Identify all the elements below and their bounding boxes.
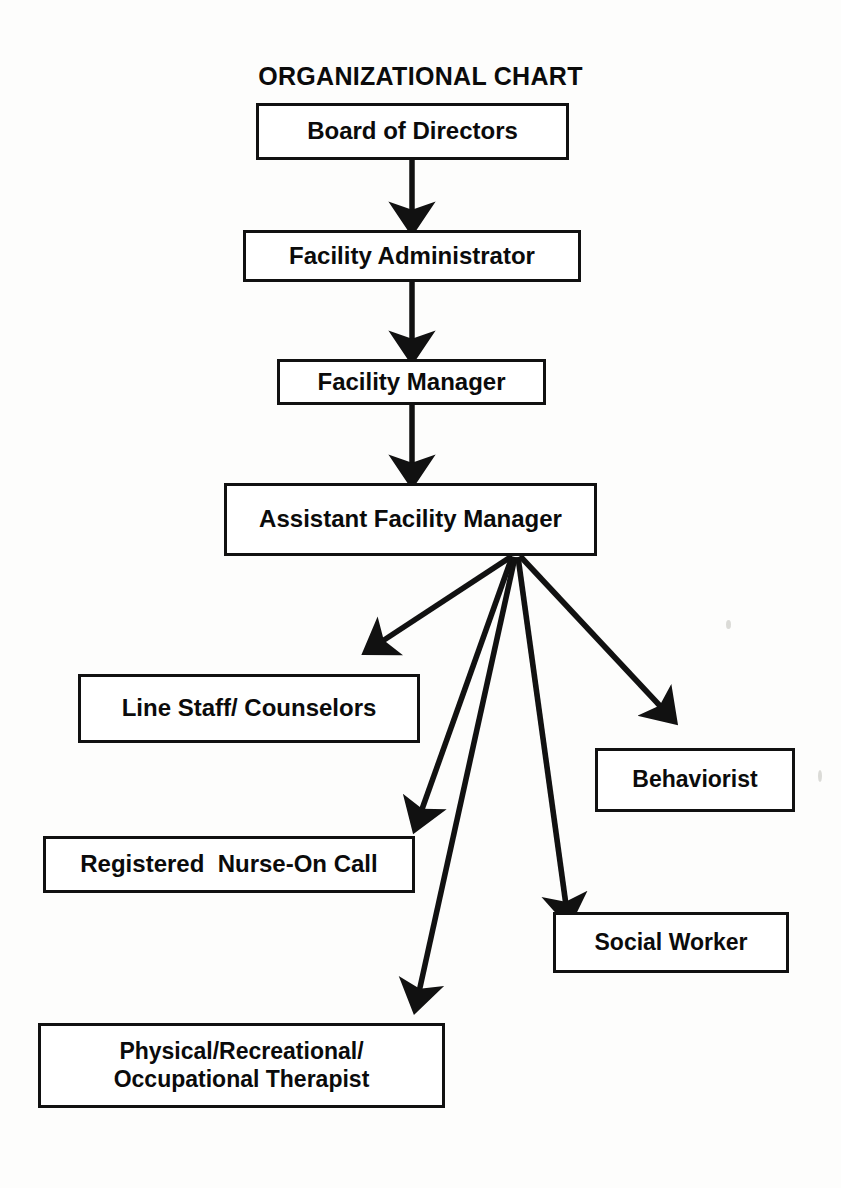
node-label: Facility Administrator: [283, 242, 541, 270]
node-physical-recreational-occupational-therapist[interactable]: Physical/Recreational/ Occupational Ther…: [38, 1023, 445, 1108]
node-label: Assistant Facility Manager: [253, 505, 568, 533]
edge-asst-to-behaviorist: [520, 556, 662, 708]
node-facility-manager[interactable]: Facility Manager: [277, 359, 546, 405]
page-title: ORGANIZATIONAL CHART: [0, 62, 841, 91]
node-label: Line Staff/ Counselors: [116, 694, 383, 722]
edge-asst-to-social: [518, 557, 566, 905]
node-registered-nurse-on-call[interactable]: Registered Nurse-On Call: [43, 836, 415, 893]
node-label: Physical/Recreational/ Occupational Ther…: [108, 1038, 376, 1092]
node-line-staff-counselors[interactable]: Line Staff/ Counselors: [78, 674, 420, 743]
node-assistant-facility-manager[interactable]: Assistant Facility Manager: [224, 483, 597, 556]
scan-speck: [726, 620, 731, 629]
node-facility-administrator[interactable]: Facility Administrator: [243, 230, 581, 282]
node-label: Facility Manager: [311, 368, 511, 396]
node-label: Behaviorist: [626, 766, 763, 793]
node-board-of-directors[interactable]: Board of Directors: [256, 103, 569, 160]
node-label: Registered Nurse-On Call: [74, 850, 383, 878]
node-label: Board of Directors: [301, 117, 524, 145]
node-social-worker[interactable]: Social Worker: [553, 912, 789, 973]
connector-layer: [0, 0, 841, 1188]
organizational-chart-canvas: ORGANIZATIONAL CHART Board of Directors …: [0, 0, 841, 1188]
edge-asst-to-linestaff: [381, 556, 512, 642]
scan-speck: [818, 770, 822, 782]
node-label: Social Worker: [589, 929, 754, 956]
edge-asst-to-therapist: [419, 557, 515, 992]
edge-asst-to-nurse: [421, 557, 512, 812]
node-behaviorist[interactable]: Behaviorist: [595, 748, 795, 812]
